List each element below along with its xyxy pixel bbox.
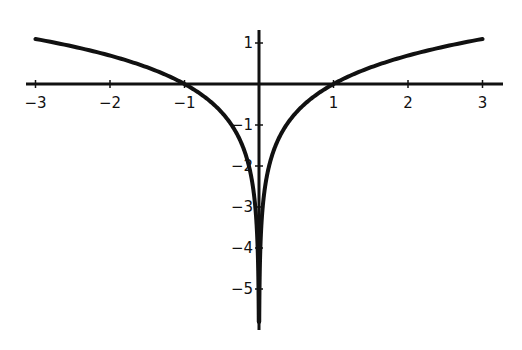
x-tick-label: 3 [478, 94, 488, 112]
y-tick-label: −3 [231, 198, 253, 216]
x-tick-label: 1 [329, 94, 339, 112]
y-tick-label: 1 [243, 34, 253, 52]
x-tick-label: 2 [403, 94, 413, 112]
curve-right-branch [259, 39, 482, 322]
chart-canvas: −3−2−11231−1−2−3−4−5 [0, 0, 522, 350]
y-tick-label: −4 [231, 239, 253, 257]
y-tick-label: −5 [231, 280, 253, 298]
x-tick-label: −1 [173, 94, 195, 112]
x-tick-label: −2 [99, 94, 121, 112]
curve-left-branch [36, 39, 259, 322]
x-tick-label: −3 [24, 94, 46, 112]
